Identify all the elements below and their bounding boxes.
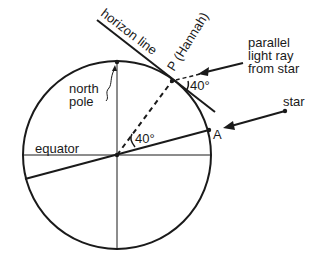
angle-arc-p (186, 81, 188, 91)
star-label: star (283, 94, 305, 109)
star-point (283, 109, 287, 113)
north-pole-point (115, 60, 119, 64)
light-ray-line (206, 63, 243, 72)
star-ray-arrowhead (223, 121, 235, 130)
equator-label: equator (35, 141, 80, 156)
center-point (115, 153, 119, 157)
earth-star-angle-diagram: horizon line P (Hannah) parallel light r… (0, 0, 321, 262)
parallel-ray-label-3: from star (248, 61, 300, 76)
north-pole-pointer-head (112, 65, 117, 71)
star-ray-line (231, 111, 285, 126)
angle-p-label: 40° (190, 78, 210, 93)
point-p-label: P (Hannah) (164, 9, 212, 73)
horizon-line-label: horizon line (98, 5, 160, 57)
north-pole-pointer (106, 70, 114, 101)
north-pole-label-2: pole (69, 94, 94, 109)
point-p (170, 79, 174, 83)
point-a (207, 128, 211, 132)
angle-center-label: 40° (135, 131, 155, 146)
point-a-label: A (213, 127, 222, 142)
